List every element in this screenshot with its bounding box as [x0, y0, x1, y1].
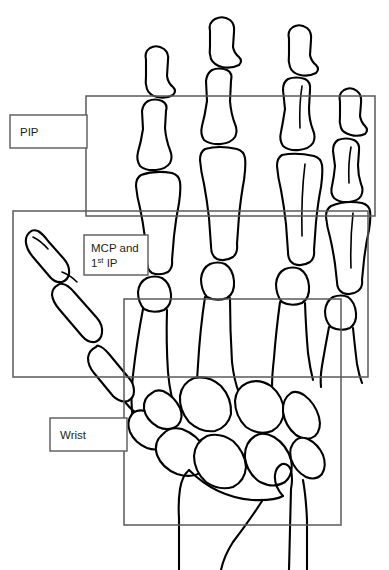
middle-proximal-phalanx [200, 147, 245, 260]
little-metacarpal-shaft [321, 327, 329, 387]
index-middle-phalanx [137, 100, 171, 171]
ring-middle-phalanx [280, 78, 314, 151]
mcp-label-text-line1: MCP and [91, 242, 139, 254]
mcp-label-text-line2: 1st IP [91, 256, 118, 270]
digit-ring [272, 25, 322, 388]
digit-little [321, 88, 371, 387]
ring-metacarpal-shaft [272, 302, 280, 388]
pisiform [283, 392, 320, 439]
middle-distal-phalanx [210, 17, 241, 67]
ring-proximal-phalanx [277, 154, 322, 265]
pip-callout[interactable]: PIP [10, 115, 87, 148]
triquetrum [245, 434, 292, 486]
radius [179, 470, 189, 570]
middle-middle-phalanx [201, 69, 236, 145]
middle-metacarpal-shaft-medial [230, 298, 239, 393]
index-distal-phalanx [146, 46, 176, 97]
hand-skeleton-bones [26, 17, 371, 570]
ring-metacarpal-shaft-medial [305, 303, 313, 380]
wrist-callout[interactable]: Wrist [50, 418, 127, 451]
wrist-label-text: Wrist [60, 429, 87, 441]
mcp-ip-text: IP [103, 257, 117, 269]
mcp-callout[interactable]: MCP and 1st IP [84, 235, 148, 275]
mcp-label-box[interactable] [84, 235, 148, 275]
index-metacarpal [138, 277, 171, 312]
ring-distal-phalanx [289, 25, 319, 75]
digit-middle [197, 17, 245, 403]
radius-medial-border [221, 501, 262, 570]
thumb-proximal-phalanx [52, 284, 102, 342]
middle-metacarpal [201, 263, 234, 300]
thumb-first-metacarpal [88, 346, 134, 402]
carpal-bones [128, 377, 324, 488]
thumb-distal-phalanx [26, 230, 69, 282]
little-middle-phalanx [331, 139, 362, 203]
hand-skeleton-figure: PIP MCP and 1st IP Wrist [0, 0, 389, 570]
carpal-distal-ulnar [290, 438, 325, 479]
hamate [235, 381, 284, 433]
pip-label-text: PIP [20, 126, 39, 138]
digit-index [132, 46, 181, 420]
little-metacarpal-shaft-medial [353, 328, 362, 383]
capitate [180, 377, 231, 431]
index-metacarpal-shaft [132, 309, 144, 420]
